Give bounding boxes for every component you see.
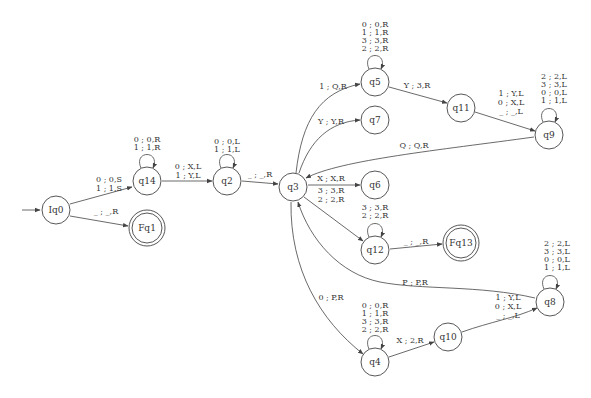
edge-q11-q9: 1 ; Y,L 0 ; X,L _ ; _,L bbox=[475, 89, 535, 131]
edge-q14-loop: 0 ; 0,R 1 ; 1,R bbox=[134, 135, 162, 168]
state-Iq0: Iq0 bbox=[42, 196, 70, 224]
state-q4: q4 bbox=[361, 348, 389, 376]
edge-q12-Fq13: _ ; _,R bbox=[390, 237, 442, 249]
edge-q3-q6: X ; X,R bbox=[308, 174, 360, 185]
state-label: q12 bbox=[366, 245, 383, 255]
state-label: Fq13 bbox=[449, 238, 473, 248]
edge-q4-loop: 0 ; 0,R 1 ; 1,R 3 ; 3,R 2 ; 2,R bbox=[362, 301, 390, 349]
edge-q8-q3: P ; P,R bbox=[298, 202, 535, 298]
edge-label: X ; 2,R bbox=[396, 336, 424, 345]
state-q9: q9 bbox=[535, 121, 563, 149]
edge-q12-loop: 3 ; 3,R 2 ; 2,R bbox=[362, 203, 390, 237]
state-label: q10 bbox=[439, 332, 456, 342]
edge-q8-loop: 2 ; 2,L 3 ; 3,L 0 ; 0,L 1 ; 1,L bbox=[543, 239, 571, 289]
state-Fq13: Fq13 bbox=[443, 225, 479, 261]
edge-label: 1 ; 1,S bbox=[96, 184, 122, 193]
edge-q2-loop: 0 ; 0,L 1 ; 1,L bbox=[214, 137, 241, 168]
state-q10: q10 bbox=[434, 323, 462, 351]
edge-Iq0-Fq1: _ ; _,R bbox=[70, 207, 128, 226]
edge-q5-q11: Y ; 3,R bbox=[389, 81, 447, 103]
edge-label: 2 ; 2,R bbox=[318, 195, 346, 204]
edge-label: 0 ; X,L bbox=[498, 98, 525, 107]
edge-label: _ ; _,R bbox=[248, 170, 273, 179]
edge-q3-q5: 1 ; Q,R bbox=[296, 82, 360, 173]
state-q12: q12 bbox=[361, 236, 389, 264]
state-q2: q2 bbox=[213, 167, 241, 195]
edge-label: 2 ; 2,R bbox=[362, 325, 390, 334]
state-label: Iq0 bbox=[48, 205, 63, 215]
edge-label: 1 ; Q,R bbox=[319, 82, 348, 91]
edge-label: _ ; _,R bbox=[94, 207, 119, 216]
edge-label: 0 ; P,R bbox=[318, 293, 344, 302]
state-label: q9 bbox=[543, 130, 555, 140]
state-label: q5 bbox=[369, 77, 381, 87]
state-label: q11 bbox=[452, 103, 469, 113]
state-q7: q7 bbox=[361, 106, 389, 134]
state-label: q8 bbox=[544, 297, 556, 307]
edge-q5-loop: 0 ; 0,R 1 ; 1,R 3 ; 3,R 2 ; 2,R bbox=[362, 20, 390, 69]
state-q6: q6 bbox=[361, 171, 389, 199]
state-q5: q5 bbox=[361, 68, 389, 96]
edge-label: _ ; _,R bbox=[404, 237, 429, 246]
edge-label: 1 ; Y,L bbox=[496, 293, 522, 302]
state-label: q2 bbox=[221, 176, 233, 186]
edge-label: P ; P,R bbox=[402, 278, 428, 287]
edge-label: 0 ; X,L bbox=[495, 302, 522, 311]
state-diagram: 0 ; 0,S 1 ; 1,S _ ; _,R 0 ; 0,R 1 ; 1,R … bbox=[0, 0, 591, 398]
state-label: q4 bbox=[369, 357, 381, 367]
edge-label: 2 ; 2,R bbox=[362, 44, 390, 53]
edge-q4-q10: X ; 2,R bbox=[389, 336, 434, 357]
state-q3: q3 bbox=[279, 173, 307, 201]
edge-label: 1 ; Y,L bbox=[499, 89, 525, 98]
edge-q10-q8: 1 ; Y,L 0 ; X,L _ ; _,L bbox=[462, 293, 537, 332]
edge-label: Q ; Q,R bbox=[399, 141, 429, 150]
edge-label: _ ; _,L bbox=[499, 107, 523, 116]
edge-label: 1 ; 1,L bbox=[214, 145, 241, 154]
edge-label: Y ; 3,R bbox=[403, 81, 432, 90]
edge-label: 0 ; X,L bbox=[175, 162, 202, 171]
state-q8: q8 bbox=[536, 288, 564, 316]
state-label: q14 bbox=[138, 176, 155, 186]
edge-label: 3 ; 3,R bbox=[318, 186, 346, 195]
edge-label: X ; X,R bbox=[317, 174, 346, 183]
edge-q3-q12: 3 ; 3,R 2 ; 2,R bbox=[304, 186, 363, 241]
edge-q3-q7: Y ; Y,R bbox=[299, 117, 360, 173]
state-q14: q14 bbox=[133, 167, 161, 195]
edge-label: 2 ; 2,R bbox=[362, 211, 390, 220]
edge-q9-q3: Q ; Q,R bbox=[306, 137, 534, 178]
edge-label: 1 ; 1,R bbox=[134, 143, 162, 152]
state-label: q3 bbox=[287, 182, 299, 192]
edge-label: 1 ; Y,L bbox=[176, 171, 202, 180]
edge-label: Y ; Y,R bbox=[317, 117, 345, 126]
edge-label: _ ; _,L bbox=[496, 311, 520, 320]
edge-label: 0 ; 0,S bbox=[96, 175, 122, 184]
edge-q2-q3: _ ; _,R bbox=[242, 170, 278, 184]
edge-label: 1 ; 1,L bbox=[541, 96, 568, 105]
edge-label: 1 ; 1,L bbox=[544, 263, 571, 272]
edge-q3-q4: 0 ; P,R bbox=[291, 202, 363, 354]
state-q11: q11 bbox=[447, 94, 475, 122]
state-label: q6 bbox=[369, 180, 381, 190]
edge-q9-loop: 2 ; 2,L 3 ; 3,L 0 ; 0,L 1 ; 1,L bbox=[541, 72, 568, 122]
state-label: q7 bbox=[369, 115, 381, 125]
edge-q14-q2: 0 ; X,L 1 ; Y,L bbox=[162, 162, 212, 181]
edge-Iq0-q14: 0 ; 0,S 1 ; 1,S bbox=[70, 175, 132, 204]
state-label: Fq1 bbox=[138, 223, 156, 233]
state-Fq1: Fq1 bbox=[129, 210, 165, 246]
